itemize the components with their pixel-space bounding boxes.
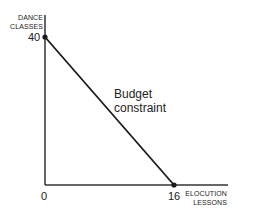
x-tick-label-0: 0 [41,190,47,202]
annotation-line1: Budget [114,87,166,101]
y-intercept-point [42,34,47,39]
x-intercept-point [171,182,176,187]
x-axis-title-block: ELOCUTION LESSONS [180,189,227,207]
x-axis-title-line1: ELOCUTION [180,189,227,198]
annotation-line2: constraint [114,101,166,115]
budget-constraint-annotation: Budget constraint [114,87,166,115]
y-axis-title-line2: CLASSES [10,22,43,31]
y-axis-title: DANCE CLASSES [10,13,43,31]
x-axis-title-line2: LESSONS [180,198,227,207]
y-tick-label-40: 40 [28,31,40,43]
x-tick-label-16: 16 [168,190,180,202]
y-axis-title-line1: DANCE [10,13,43,22]
